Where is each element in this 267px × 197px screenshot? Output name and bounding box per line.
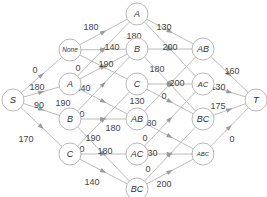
edge-weight-label: 190 <box>55 98 70 108</box>
node-label: ABC <box>196 151 210 157</box>
edge-weight-label: 200 <box>162 42 177 52</box>
node-A1: A <box>59 73 81 95</box>
edge-weight-label: 180 <box>83 22 98 32</box>
node-label: AB <box>130 114 143 124</box>
node-AC2: AC <box>126 143 148 165</box>
node-C2: C <box>126 73 148 95</box>
node-AB3: AB <box>192 38 214 60</box>
arrow-icon <box>100 98 107 103</box>
edge-weight-label: 180 <box>29 82 44 92</box>
node-AB2: AB <box>126 108 148 130</box>
edge-weight-label: 190 <box>98 59 113 69</box>
network-diagram: 0180901701801401900140190018019001801401… <box>0 0 267 197</box>
edge-weight-label: 0 <box>32 65 37 75</box>
node-AC3: AC <box>192 73 214 95</box>
node-label: C <box>134 79 141 89</box>
node-label: S <box>10 94 17 105</box>
edge-weight-label: 170 <box>18 134 33 144</box>
node-BC2: BC <box>126 178 148 197</box>
node-label: BC <box>197 114 210 124</box>
node-label: AC <box>130 149 144 159</box>
node-label: A <box>133 9 140 19</box>
node-T: T <box>245 89 267 111</box>
node-label: B <box>134 44 140 54</box>
arrow-icon <box>226 108 233 112</box>
arrow-icon <box>166 98 173 103</box>
node-A2: A <box>126 3 148 25</box>
node-S: S <box>2 89 24 111</box>
edge-weight-label: 160 <box>224 66 239 76</box>
edge-weight-label: 130 <box>129 96 144 106</box>
node-label: AC <box>197 80 209 89</box>
edge-weight-label: 140 <box>84 177 99 187</box>
node-label: AB <box>196 44 209 54</box>
edge-weight-label: 0 <box>161 91 166 101</box>
node-B2: B <box>126 38 148 60</box>
edge-weight-label: 175 <box>210 101 225 111</box>
node-label: C <box>67 149 74 159</box>
node-label: None <box>62 46 78 53</box>
arrow-icon <box>100 30 107 35</box>
node-C1: C <box>59 143 81 165</box>
arrow-icon <box>100 168 107 173</box>
edge-weight-label: 130 <box>156 22 171 32</box>
node-ABC3: ABC <box>192 143 214 165</box>
node-BC3: BC <box>192 108 214 130</box>
arrow-icon <box>166 133 173 138</box>
edge-weight-label: 180 <box>97 146 112 156</box>
edge-weight-label: 180 <box>105 123 120 133</box>
arrow-icon <box>226 89 233 93</box>
edge-weight-label: 90 <box>34 100 44 110</box>
edge-weight-label: 140 <box>104 42 119 52</box>
edge-weight-label: 0 <box>229 134 234 144</box>
edge-weight-label: 0 <box>75 63 80 73</box>
node-label: BC <box>131 184 144 194</box>
node-None: None <box>59 39 81 61</box>
node-label: B <box>67 114 73 124</box>
edge-weight-label: 200 <box>169 78 184 88</box>
edge-weight-label: 0 <box>145 164 150 174</box>
edge-weight-label: 0 <box>142 133 147 143</box>
edge-weight-label: 180 <box>149 64 164 74</box>
edge-weight-label: 200 <box>156 179 171 189</box>
node-label: A <box>66 79 73 89</box>
arrow-icon <box>166 170 173 175</box>
edge-weight-label: 190 <box>85 133 100 143</box>
node-B1: B <box>59 108 81 130</box>
